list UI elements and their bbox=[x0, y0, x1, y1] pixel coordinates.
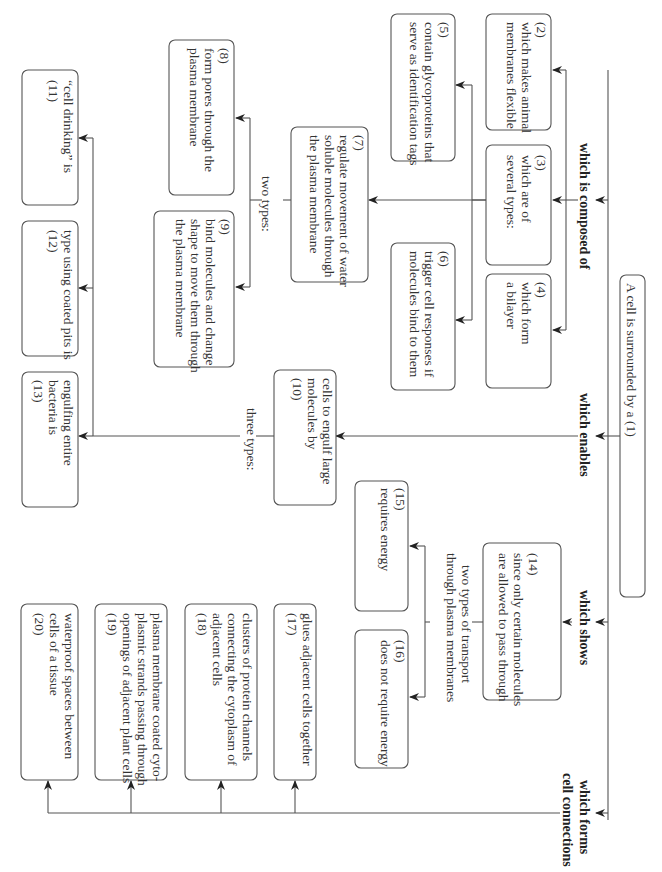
label-transport-1: two types of transport bbox=[459, 565, 474, 683]
box-17: glues adjacent cells together (17) bbox=[274, 604, 316, 780]
label-transport-2: through plasma membranes bbox=[444, 553, 459, 702]
box-8: (8) form pores through the plasma membra… bbox=[169, 40, 234, 195]
box-5: (5) contain glycoproteins that serve as … bbox=[391, 14, 455, 166]
link-composed-of: which is composed of bbox=[577, 143, 592, 270]
box-14: (14) since only certain molecules are al… bbox=[483, 543, 561, 710]
box-6: (6) trigger cell responses if molecules … bbox=[391, 243, 455, 390]
concept-map: A cell is surrounded by a (1) which is c… bbox=[0, 0, 662, 872]
box-11: “cell drinking” is (11) bbox=[22, 70, 78, 205]
link-cell-connections: cell connections bbox=[560, 773, 575, 867]
box-18: clusters of protein channels connecting … bbox=[185, 604, 257, 780]
trunk-connectors bbox=[608, 70, 620, 820]
label-two-types: two types: bbox=[259, 176, 274, 232]
box-2: (2) which makes animal membranes flexibl… bbox=[486, 14, 551, 136]
box-12: type using coated pits is (12) bbox=[22, 221, 78, 363]
link-enables: which enables bbox=[577, 393, 592, 477]
box-19: plasma membrane coated cyto- plasmic str… bbox=[95, 604, 167, 789]
box-20: waterproof spaces between cells of a tis… bbox=[21, 604, 78, 780]
box-15: (15) requires energy bbox=[355, 481, 408, 611]
root-text: A cell is surrounded by a (1) bbox=[624, 283, 639, 437]
box-9: (9) bind molecules and change shape to m… bbox=[154, 211, 234, 376]
link-forms: which forms bbox=[577, 780, 592, 855]
label-three-types: three types: bbox=[244, 408, 259, 471]
box-13: engulfing entire bacteria is (13) bbox=[22, 372, 78, 507]
box-4: (4) which form a bilayer bbox=[486, 274, 551, 388]
link-shows: which shows bbox=[577, 590, 592, 666]
box-3: (3) which are of several types: bbox=[486, 145, 551, 265]
box-7: (7) regulate movement of water soluble m… bbox=[291, 127, 368, 290]
box-10: cells to engulf large molecules by (10) bbox=[274, 370, 336, 505]
box-16: (16) does not require energy bbox=[355, 630, 408, 768]
root-box: A cell is surrounded by a (1) bbox=[620, 275, 645, 597]
